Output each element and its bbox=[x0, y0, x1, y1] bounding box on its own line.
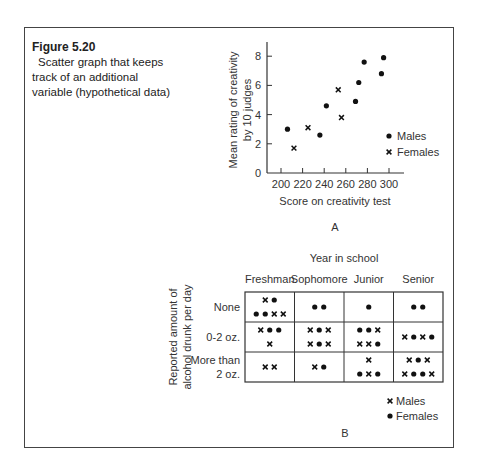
male-marker bbox=[429, 372, 434, 377]
male-marker bbox=[308, 342, 313, 347]
males-data-point bbox=[381, 55, 386, 60]
y-axis-label-line2: by 10 judges bbox=[241, 78, 253, 141]
male-marker bbox=[326, 328, 331, 333]
table-title: Year in school bbox=[310, 252, 379, 264]
x-tick-label: 300 bbox=[380, 178, 398, 190]
y-tick-label: 4 bbox=[255, 109, 261, 121]
males-data-point bbox=[324, 103, 329, 108]
male-marker bbox=[308, 328, 313, 333]
x-tick-label: 220 bbox=[293, 178, 311, 190]
male-marker bbox=[272, 365, 277, 370]
male-marker bbox=[263, 298, 268, 303]
male-marker bbox=[263, 365, 268, 370]
column-header: Junior bbox=[354, 273, 384, 285]
dot-legend-icon bbox=[387, 413, 392, 418]
y-tick-label: 2 bbox=[255, 138, 261, 150]
row-axis-label-line1: Reported amount of bbox=[167, 287, 179, 385]
male-marker bbox=[366, 342, 371, 347]
female-marker bbox=[272, 297, 277, 302]
x-axis-label: Score on creativity test bbox=[279, 195, 390, 207]
males-data-point bbox=[317, 132, 322, 137]
column-header: Senior bbox=[402, 273, 434, 285]
male-marker bbox=[366, 372, 371, 377]
female-marker bbox=[366, 304, 371, 309]
female-marker bbox=[254, 311, 259, 316]
males-data-point bbox=[356, 80, 361, 85]
male-marker bbox=[402, 335, 407, 340]
male-marker bbox=[267, 342, 272, 347]
male-marker bbox=[281, 312, 286, 317]
females-data-point bbox=[339, 115, 344, 120]
male-marker bbox=[357, 342, 362, 347]
legend-label: Males bbox=[397, 130, 427, 142]
female-marker bbox=[263, 311, 268, 316]
females-data-point bbox=[306, 125, 311, 130]
male-marker bbox=[420, 335, 425, 340]
row-axis-label-line2: alcohol drunk per day bbox=[181, 284, 193, 390]
female-marker bbox=[411, 304, 416, 309]
x-tick-label: 280 bbox=[358, 178, 376, 190]
female-marker bbox=[375, 341, 380, 346]
row-header: None bbox=[214, 301, 240, 313]
row-header: 2 oz. bbox=[216, 368, 240, 380]
female-marker bbox=[420, 304, 425, 309]
female-marker bbox=[411, 334, 416, 339]
female-marker bbox=[267, 327, 272, 332]
males-data-point bbox=[353, 99, 358, 104]
male-marker bbox=[326, 342, 331, 347]
y-tick-label: 8 bbox=[255, 50, 261, 62]
male-marker bbox=[366, 358, 371, 363]
row-header: 0-2 oz. bbox=[206, 331, 240, 343]
female-marker bbox=[357, 327, 362, 332]
legend-label: Females bbox=[396, 410, 439, 422]
male-marker bbox=[312, 365, 317, 370]
males-data-point bbox=[362, 59, 367, 64]
female-marker bbox=[321, 304, 326, 309]
column-header: Sophomore bbox=[291, 273, 348, 285]
x-tick-label: 260 bbox=[337, 178, 355, 190]
female-marker bbox=[429, 334, 434, 339]
legend-label: Females bbox=[397, 146, 440, 158]
y-tick-label: 6 bbox=[255, 79, 261, 91]
male-marker bbox=[375, 328, 380, 333]
female-marker bbox=[366, 327, 371, 332]
cross-legend-icon bbox=[387, 150, 392, 155]
females-data-point bbox=[336, 87, 341, 92]
female-marker bbox=[357, 371, 362, 376]
male-marker bbox=[425, 358, 430, 363]
female-marker bbox=[411, 371, 416, 376]
cross-legend-icon bbox=[388, 399, 393, 404]
male-marker bbox=[272, 312, 277, 317]
figure-graphics: 02468200220240260280300Score on creativi… bbox=[0, 0, 477, 471]
legend-label: Males bbox=[396, 395, 426, 407]
x-tick-label: 200 bbox=[272, 178, 290, 190]
male-marker bbox=[258, 328, 263, 333]
x-tick-label: 240 bbox=[315, 178, 333, 190]
female-marker bbox=[375, 371, 380, 376]
panel-label-b: B bbox=[341, 427, 348, 439]
dot-legend-icon bbox=[386, 133, 391, 138]
panel-label-a: A bbox=[331, 221, 339, 233]
female-marker bbox=[416, 357, 421, 362]
y-axis-label-line1: Mean rating of creativity bbox=[227, 51, 239, 168]
female-marker bbox=[317, 341, 322, 346]
females-data-point bbox=[292, 146, 297, 151]
female-marker bbox=[312, 304, 317, 309]
y-tick-label: 0 bbox=[255, 167, 261, 179]
male-marker bbox=[407, 358, 412, 363]
row-header: More than bbox=[190, 354, 240, 366]
female-marker bbox=[317, 327, 322, 332]
female-marker bbox=[420, 371, 425, 376]
males-data-point bbox=[285, 127, 290, 132]
males-data-point bbox=[379, 71, 384, 76]
column-header: Freshman bbox=[245, 273, 295, 285]
male-marker bbox=[402, 372, 407, 377]
female-marker bbox=[321, 364, 326, 369]
female-marker bbox=[276, 327, 281, 332]
